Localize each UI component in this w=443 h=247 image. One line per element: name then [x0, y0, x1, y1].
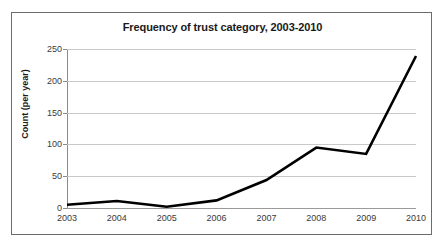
x-axis-tick-label: 2006 — [197, 213, 237, 223]
series-polyline — [67, 56, 416, 207]
y-axis-tick-mark — [63, 144, 67, 145]
y-axis-tick-label: 250 — [28, 45, 62, 54]
x-axis-tick-label: 2005 — [147, 213, 187, 223]
chart-title: Frequency of trust category, 2003-2010 — [12, 21, 433, 33]
y-axis-tick-label: 0 — [28, 204, 62, 213]
gridline — [67, 208, 416, 209]
y-axis-tick-label: 150 — [28, 109, 62, 118]
y-axis-tick-mark — [63, 208, 67, 209]
x-axis-tick-label: 2004 — [97, 213, 137, 223]
y-axis-tick-mark — [63, 49, 67, 50]
y-axis-tick-mark — [63, 81, 67, 82]
y-axis-tick-label: 100 — [28, 140, 62, 149]
chart-figure: Frequency of trust category, 2003-2010 C… — [11, 12, 432, 235]
data-series-line — [67, 49, 416, 208]
x-axis-tick-label: 2009 — [346, 213, 386, 223]
x-axis-tick-label: 2008 — [296, 213, 336, 223]
y-axis-tick-mark — [63, 113, 67, 114]
y-axis-tick-mark — [63, 176, 67, 177]
y-axis-tick-label: 200 — [28, 77, 62, 86]
x-axis-tick-label: 2003 — [47, 213, 87, 223]
x-axis-tick-label: 2007 — [246, 213, 286, 223]
plot-area — [67, 49, 416, 208]
y-axis-tick-labels: 050100150200250 — [22, 13, 62, 236]
y-axis-tick-label: 50 — [28, 172, 62, 181]
x-axis-tick-labels: 20032004200520062007200820092010 — [67, 213, 416, 227]
x-axis-tick-label: 2010 — [396, 213, 436, 223]
